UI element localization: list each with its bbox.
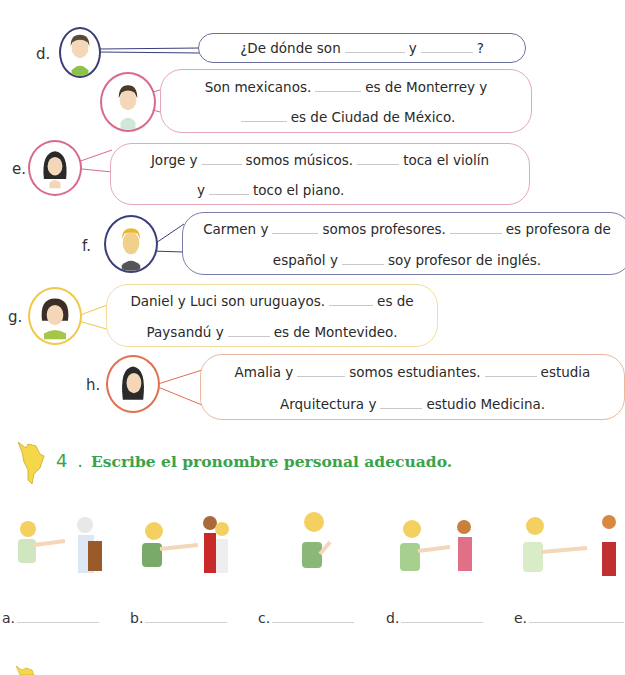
avatar-woman-dark-hair [106, 355, 160, 413]
answer-label: b. [130, 610, 143, 626]
bubble-text: es de [377, 293, 414, 309]
answer-blank[interactable] [272, 224, 318, 234]
speech-bubble-f: Carmen ysomos profesores.es profesora de… [182, 212, 625, 275]
answer-blank[interactable] [357, 155, 399, 165]
bubble-text: somos profesores. [322, 221, 445, 237]
answer-label: e. [514, 610, 527, 626]
bubble-text: somos estudiantes. [349, 364, 480, 380]
answer-field-b[interactable]: b. [130, 610, 227, 626]
answer-blank[interactable] [329, 296, 373, 306]
exercise-title: Escribe el pronombre personal adecuado. [91, 452, 452, 471]
person-portrait-icon [30, 142, 80, 194]
answer-blank[interactable] [345, 43, 405, 53]
figure-pointing-at-girl [392, 515, 492, 587]
exercise-number: 4 . [56, 450, 85, 471]
answer-blank[interactable] [241, 112, 287, 122]
answer-blank[interactable] [421, 43, 473, 53]
person-portrait-icon [108, 357, 158, 411]
answer-blank[interactable] [315, 82, 361, 92]
speech-bubble-g: Daniel y Luci son uruguayos.es de Paysan… [106, 284, 438, 347]
bubble-text: Paysandú y [147, 324, 224, 340]
avatar-woman-short-hair [100, 72, 156, 132]
bubble-text: estudia [541, 364, 591, 380]
bubble-text: es de Ciudad de México. [291, 109, 456, 125]
speech-bubble-h: Amalia ysomos estudiantes.estudia Arquit… [200, 354, 625, 420]
dialogue-letter-g: g. [8, 308, 22, 326]
person-portrait-icon [61, 29, 99, 76]
bubble-text: es de Montevideo. [274, 324, 398, 340]
bubble-text: estudio Medicina. [426, 396, 545, 412]
answer-label: d. [386, 610, 399, 626]
speech-bubble-d-question: ¿De dónde sony? [198, 33, 526, 63]
bubble-text: Amalia y [235, 364, 294, 380]
answer-field-c[interactable]: c. [258, 610, 354, 626]
bubble-text: español y [273, 252, 338, 268]
figure-pointing-at-self [290, 508, 350, 580]
bubble-text: Jorge y [151, 152, 198, 168]
bubble-text: y [409, 40, 417, 56]
bubble-text: somos músicos. [246, 152, 354, 168]
answer-label: c. [258, 610, 270, 626]
answer-line[interactable] [17, 613, 99, 623]
figure-pointing-at-two-kids [130, 515, 240, 585]
dialogue-letter-f: f. [82, 237, 91, 255]
speech-bubble-d-answer: Son mexicanos.es de Monterrey y es de Ci… [160, 69, 532, 133]
bubble-text: toco el piano. [253, 182, 344, 198]
avatar-woman-long-hair [28, 140, 82, 196]
bubble-text: Arquitectura y [280, 396, 376, 412]
answer-blank[interactable] [342, 255, 384, 265]
answer-field-d[interactable]: d. [386, 610, 483, 626]
answer-line[interactable] [529, 613, 624, 623]
speech-bubble-e: Jorge ysomos músicos.toca el violín ytoc… [110, 143, 530, 205]
answer-blank[interactable] [297, 367, 345, 377]
answer-blank[interactable] [202, 155, 242, 165]
answer-line[interactable] [145, 613, 227, 623]
bubble-text: Carmen y [203, 221, 268, 237]
answer-field-a[interactable]: a. [2, 610, 99, 626]
bubble-text: soy profesor de inglés. [388, 252, 541, 268]
answer-blank[interactable] [380, 399, 422, 409]
exercise-heading: 4 .Escribe el pronombre personal adecuad… [56, 450, 452, 471]
bubble-text: ? [477, 40, 484, 56]
dialogue-letter-e: e. [12, 160, 26, 178]
figure-pointing-at-boy [515, 512, 620, 588]
avatar-man-glasses [59, 27, 101, 78]
figure-pointing-at-old-couple [10, 515, 110, 585]
dialogue-letter-h: h. [86, 376, 100, 394]
answer-line[interactable] [272, 613, 354, 623]
bubble-text: ¿De dónde son [240, 40, 341, 56]
bubble-text: toca el violín [403, 152, 489, 168]
south-america-map-icon-partial [14, 664, 38, 675]
answer-blank[interactable] [209, 185, 249, 195]
bubble-text: es profesora de [506, 221, 611, 237]
bubble-text: y [197, 182, 205, 198]
answer-blank[interactable] [228, 327, 270, 337]
answer-field-e[interactable]: e. [514, 610, 624, 626]
avatar-man-blond [104, 215, 158, 273]
answer-blank[interactable] [450, 224, 502, 234]
person-portrait-icon [106, 217, 156, 271]
dialogue-letter-d: d. [36, 45, 50, 63]
answer-line[interactable] [401, 613, 483, 623]
answer-label: a. [2, 610, 15, 626]
bubble-text: es de Monterrey y [365, 79, 487, 95]
south-america-map-icon [14, 438, 48, 486]
person-portrait-icon [30, 289, 80, 343]
bubble-text: Daniel y Luci son uruguayos. [130, 293, 325, 309]
answer-blank[interactable] [485, 367, 537, 377]
avatar-woman-curly-hair [28, 287, 82, 345]
bubble-text: Son mexicanos. [205, 79, 311, 95]
person-portrait-icon [102, 74, 154, 130]
